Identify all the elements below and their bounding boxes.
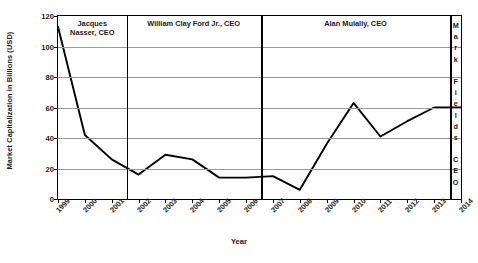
gridline bbox=[58, 169, 461, 170]
ceo-label-line: Alan Mulally, CEO bbox=[261, 19, 450, 28]
ceo-divider-ford bbox=[127, 16, 129, 199]
ceo-label-fields: MarkFieldsCEO bbox=[449, 20, 463, 188]
gridline bbox=[58, 77, 461, 78]
y-tick-label: 0 bbox=[50, 195, 54, 204]
plot-area: 020406080100120JacquesNasser, CEOWilliam… bbox=[57, 15, 462, 200]
ceo-label-letter: M bbox=[449, 20, 463, 31]
ceo-label-letter bbox=[449, 65, 463, 76]
y-axis-title: Market Capitalization in Billions (USD) bbox=[2, 0, 18, 200]
ceo-label-letter bbox=[449, 143, 463, 154]
chart-figure: Market Capitalization in Billions (USD) … bbox=[0, 0, 478, 263]
ceo-label-letter: O bbox=[449, 177, 463, 188]
y-tick-mark bbox=[54, 138, 58, 139]
y-tick-label: 100 bbox=[41, 42, 54, 51]
ceo-label-letter: C bbox=[449, 154, 463, 165]
y-tick-label: 80 bbox=[46, 73, 54, 82]
ceo-label-line: William Clay Ford Jr., CEO bbox=[127, 19, 261, 28]
ceo-label-line: Nasser, CEO bbox=[58, 28, 127, 37]
y-axis-title-text: Market Capitalization in Billions (USD) bbox=[6, 31, 15, 169]
ceo-label-letter: F bbox=[449, 76, 463, 87]
ceo-label-letter: k bbox=[449, 54, 463, 65]
y-tick-mark bbox=[54, 169, 58, 170]
gridline bbox=[58, 138, 461, 139]
ceo-label-letter: E bbox=[449, 165, 463, 176]
y-tick-label: 20 bbox=[46, 164, 54, 173]
ceo-label-letter: r bbox=[449, 42, 463, 53]
ceo-label-letter: d bbox=[449, 121, 463, 132]
y-tick-label: 120 bbox=[41, 12, 54, 21]
gridline bbox=[58, 108, 461, 109]
y-tick-mark bbox=[54, 47, 58, 48]
ceo-label-letter: i bbox=[449, 87, 463, 98]
y-tick-label: 60 bbox=[46, 103, 54, 112]
ceo-label-letter: a bbox=[449, 31, 463, 42]
ceo-label-letter: l bbox=[449, 110, 463, 121]
y-tick-mark bbox=[54, 108, 58, 109]
ceo-label-ford: William Clay Ford Jr., CEO bbox=[127, 19, 261, 28]
ceo-label-nasser: JacquesNasser, CEO bbox=[58, 19, 127, 37]
x-axis-title: Year bbox=[0, 237, 478, 246]
ceo-label-line: Jacques bbox=[58, 19, 127, 28]
ceo-label-letter: e bbox=[449, 98, 463, 109]
y-tick-mark bbox=[54, 77, 58, 78]
ceo-label-mulally: Alan Mulally, CEO bbox=[261, 19, 450, 28]
gridline bbox=[58, 47, 461, 48]
ceo-divider-mulally bbox=[261, 16, 263, 199]
y-tick-label: 40 bbox=[46, 134, 54, 143]
y-tick-mark bbox=[54, 16, 58, 17]
ceo-label-letter: s bbox=[449, 132, 463, 143]
